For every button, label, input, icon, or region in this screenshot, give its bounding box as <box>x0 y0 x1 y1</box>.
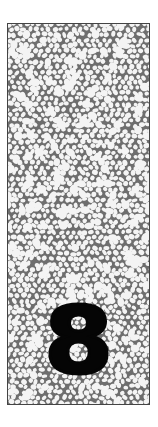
number-card: 8 <box>7 23 150 405</box>
card-number: 8 <box>7 296 150 388</box>
